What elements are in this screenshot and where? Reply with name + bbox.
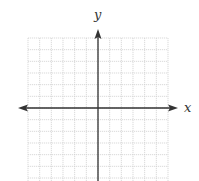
x-axis-label: x (184, 100, 192, 115)
coordinate-plane: y x (0, 0, 199, 181)
y-axis-label: y (93, 7, 102, 22)
